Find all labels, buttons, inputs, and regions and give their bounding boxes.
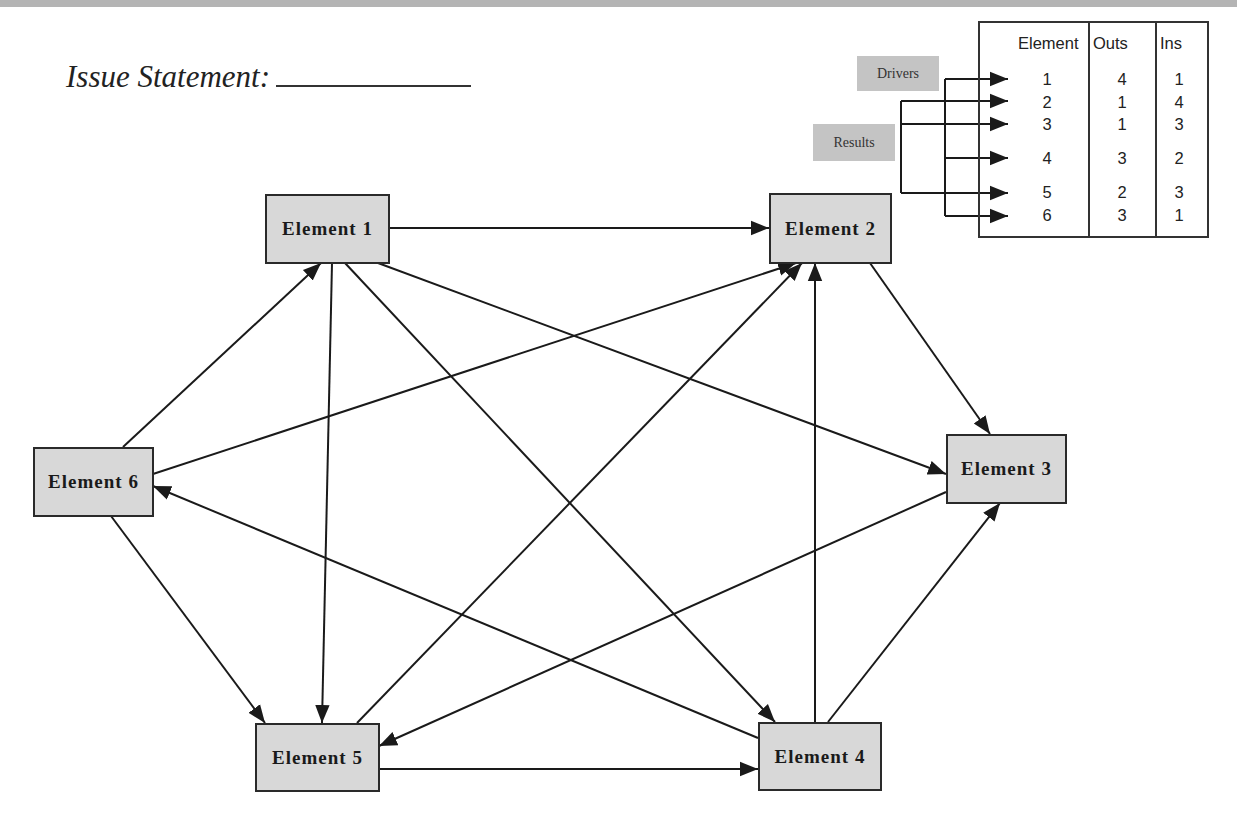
drivers-tag: Drivers xyxy=(857,56,939,91)
column-header-ins: Ins xyxy=(1160,34,1182,53)
table-row-6-outs: 3 xyxy=(1107,206,1137,225)
edge-e1-e3 xyxy=(378,263,946,474)
edge-e4-e6 xyxy=(153,486,758,738)
edge-e4-e3 xyxy=(828,503,1000,722)
table-row-5-outs: 2 xyxy=(1107,183,1137,202)
column-header-outs: Outs xyxy=(1093,34,1128,53)
table-row-6-ins: 1 xyxy=(1164,206,1194,225)
element-node-2[interactable]: Element 2 xyxy=(769,193,892,264)
table-row-1-outs: 4 xyxy=(1107,70,1137,89)
column-header-element: Element xyxy=(1018,34,1079,53)
column-divider xyxy=(1088,23,1090,236)
outs-ins-table: Element Outs Ins 1 4 1 2 1 4 3 1 3 4 3 2… xyxy=(978,21,1209,238)
table-row-4-element: 4 xyxy=(1032,149,1062,168)
edge-e1-e4 xyxy=(345,263,775,722)
table-row-2-element: 2 xyxy=(1032,93,1062,112)
results-tag: Results xyxy=(813,124,895,161)
table-row-1-ins: 1 xyxy=(1164,70,1194,89)
drivers-label: Drivers xyxy=(877,66,919,82)
element-node-3[interactable]: Element 3 xyxy=(946,434,1067,504)
table-row-3-ins: 3 xyxy=(1164,115,1194,134)
element-node-5-label: Element 5 xyxy=(272,747,363,769)
edge-e1-e5 xyxy=(322,263,332,723)
table-row-4-ins: 2 xyxy=(1164,149,1194,168)
edge-e3-e5 xyxy=(379,492,946,746)
edge-e5-e2 xyxy=(357,263,802,723)
element-node-5[interactable]: Element 5 xyxy=(255,723,380,792)
element-node-3-label: Element 3 xyxy=(961,458,1052,480)
table-row-2-outs: 1 xyxy=(1107,93,1137,112)
element-node-6-label: Element 6 xyxy=(48,471,139,493)
table-row-6-element: 6 xyxy=(1032,206,1062,225)
table-row-4-outs: 3 xyxy=(1107,149,1137,168)
element-node-1-label: Element 1 xyxy=(282,218,373,240)
table-row-2-ins: 4 xyxy=(1164,93,1194,112)
element-node-4[interactable]: Element 4 xyxy=(758,722,882,791)
table-row-3-outs: 1 xyxy=(1107,115,1137,134)
edge-e6-e5 xyxy=(111,516,265,723)
edge-e2-e3 xyxy=(870,263,990,434)
element-node-2-label: Element 2 xyxy=(785,218,876,240)
table-row-1-element: 1 xyxy=(1032,70,1062,89)
element-node-6[interactable]: Element 6 xyxy=(33,447,154,517)
table-row-3-element: 3 xyxy=(1032,115,1062,134)
table-row-5-element: 5 xyxy=(1032,183,1062,202)
table-row-5-ins: 3 xyxy=(1164,183,1194,202)
element-node-4-label: Element 4 xyxy=(775,746,866,768)
element-node-1[interactable]: Element 1 xyxy=(265,194,390,264)
edge-e6-e1 xyxy=(123,263,321,447)
column-divider xyxy=(1155,23,1157,236)
results-label: Results xyxy=(833,135,874,151)
